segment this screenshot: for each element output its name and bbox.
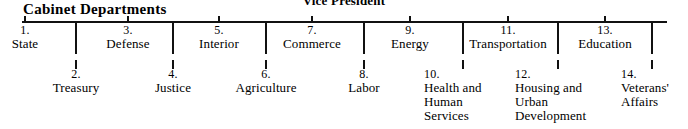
- node-label: Education: [530, 37, 680, 50]
- node-label: Labor: [289, 81, 439, 94]
- tick-1: [24, 16, 26, 22]
- node-label: Veterans' Affairs: [621, 81, 683, 109]
- spine-line: [22, 21, 667, 23]
- node-veterans-affairs: 14.Veterans' Affairs: [621, 68, 683, 109]
- node-education: 13.Education: [530, 24, 680, 50]
- tick-5: [218, 16, 220, 22]
- page-title: Cabinet Departments: [23, 1, 167, 18]
- tick-9: [409, 16, 411, 22]
- node-housing-and-urban-development: 12.Housing and Urban Development: [515, 68, 601, 123]
- node-labor: 8.Labor: [289, 68, 439, 94]
- tick-11: [507, 16, 509, 22]
- tick-3: [127, 16, 129, 22]
- tick-13: [604, 16, 606, 22]
- cabinet-departments-diagram: Vice President Cabinet Departments 1.Sta…: [0, 0, 688, 129]
- branch-line-14: [651, 21, 653, 54]
- node-label: Housing and Urban Development: [515, 81, 601, 123]
- tick-7: [311, 16, 313, 22]
- node-health-and-human-services: 10.Health and Human Services: [424, 68, 502, 123]
- node-label: Health and Human Services: [424, 81, 502, 123]
